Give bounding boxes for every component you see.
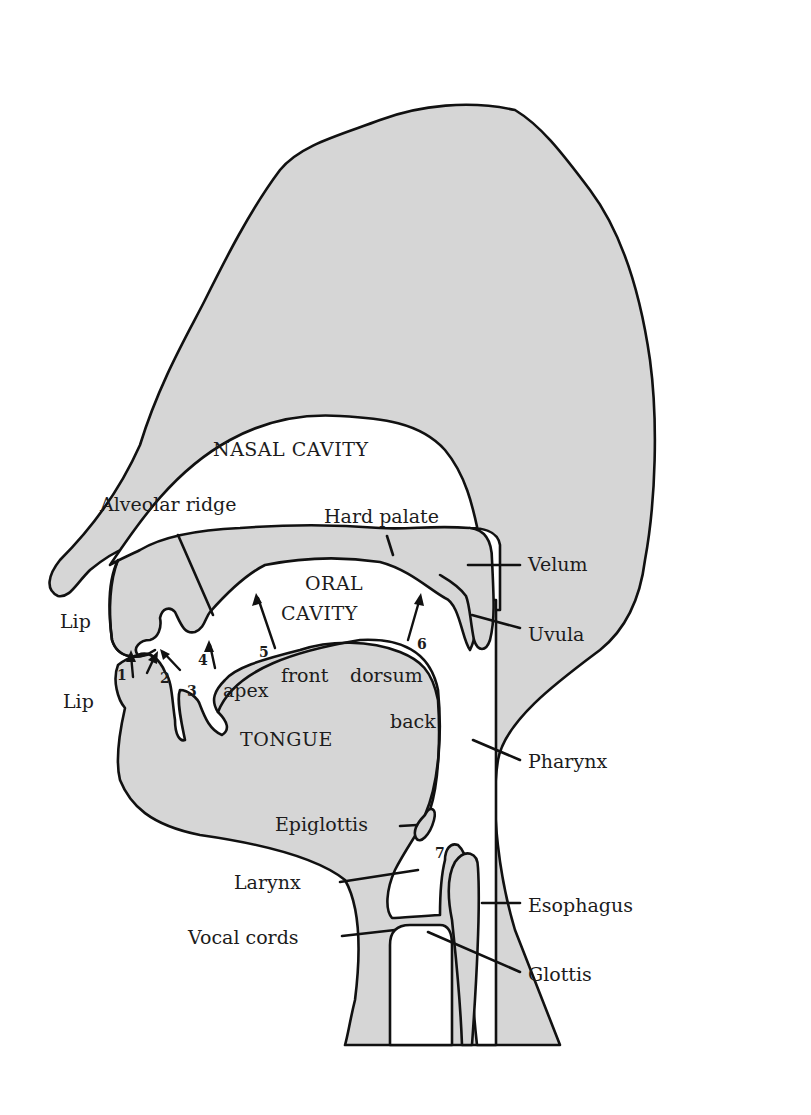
oral-cavity-label-line2: CAVITY bbox=[281, 604, 358, 623]
pharynx-label: Pharynx bbox=[528, 752, 607, 771]
back-label: back bbox=[390, 712, 436, 731]
upper-lip-label: Lip bbox=[60, 612, 91, 631]
articulation-number-4: 4 bbox=[198, 653, 208, 667]
articulation-number-2: 2 bbox=[160, 671, 170, 685]
larynx-label: Larynx bbox=[234, 873, 301, 892]
velum-label: Velum bbox=[528, 555, 588, 574]
vocal-tract-diagram: NASAL CAVITY ORAL CAVITY TONGUE Alveolar… bbox=[0, 0, 811, 1115]
nasal-cavity-label: NASAL CAVITY bbox=[213, 440, 369, 459]
apex-label: apex bbox=[223, 681, 268, 700]
tongue-label: TONGUE bbox=[240, 730, 333, 749]
lower-lip-label: Lip bbox=[63, 692, 94, 711]
hard-palate-label: Hard palate bbox=[324, 507, 439, 526]
articulation-number-5: 5 bbox=[259, 645, 269, 659]
anatomy-drawing bbox=[0, 0, 811, 1115]
epiglottis-label: Epiglottis bbox=[275, 815, 368, 834]
articulation-number-7: 7 bbox=[435, 846, 445, 860]
front-label: front bbox=[281, 666, 328, 685]
dorsum-label: dorsum bbox=[350, 666, 423, 685]
oral-cavity-label-line1: ORAL bbox=[305, 574, 363, 593]
glottis-label: Glottis bbox=[528, 965, 592, 984]
vocal-cords-label: Vocal cords bbox=[188, 928, 299, 947]
articulation-number-3: 3 bbox=[187, 684, 197, 698]
uvula-label: Uvula bbox=[528, 625, 584, 644]
esophagus-label: Esophagus bbox=[528, 896, 633, 915]
articulation-number-1: 1 bbox=[117, 668, 127, 682]
trachea-outline bbox=[390, 925, 452, 1045]
articulation-number-6: 6 bbox=[417, 637, 427, 651]
alveolar-ridge-label: Alveolar ridge bbox=[100, 495, 236, 514]
